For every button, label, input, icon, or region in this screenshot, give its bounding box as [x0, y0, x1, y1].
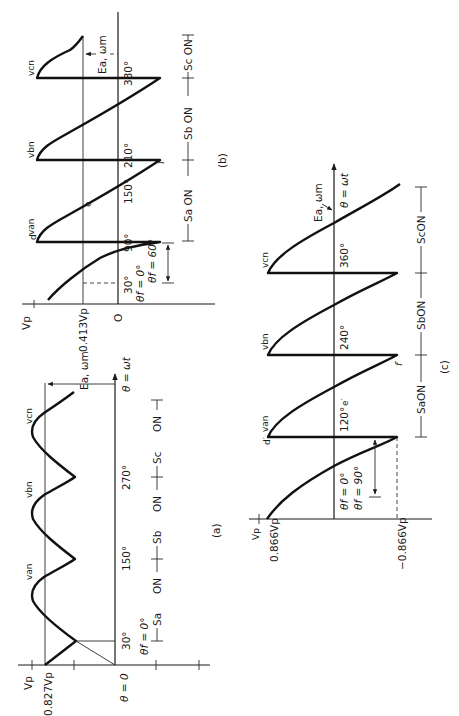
panel-a-sa-label: Sa — [151, 613, 163, 626]
panel-b-sa-label: Sa ON — [182, 189, 194, 222]
panel-c-axis-label: θ = ωt — [338, 172, 350, 208]
panel-a-fire-label: θf = 0° — [138, 617, 150, 655]
panel-a-diagonal — [76, 641, 115, 665]
panel-b-tick-30: 30° — [122, 275, 134, 294]
panel-a-waveform — [32, 392, 76, 665]
panel-a-sb-label: Sb — [151, 530, 163, 544]
panel-c-point-f: f′ — [394, 361, 404, 366]
panel-a-vbn-label: vbn — [24, 481, 34, 498]
panel-a-vp-label: Vp — [22, 676, 34, 690]
panel-a-tick-30: 30° — [120, 631, 132, 650]
panel-a-sc-on-label: ON — [151, 416, 163, 432]
panel-b-level-label: 0.413Vp — [77, 308, 89, 352]
panel-a-tick-150: 150° — [120, 546, 132, 571]
panel-b-tick-330: 330° — [122, 61, 134, 86]
panel-b-sb-label: Sb ON — [182, 107, 194, 140]
panel-b-emf-label: Ea, ωm — [96, 35, 108, 74]
panel-c-tick-240: 240° — [338, 325, 350, 350]
panel-b-fire-label: θf = 60° — [146, 239, 158, 283]
panel-c-pos-label: 0.866Vp — [268, 518, 280, 562]
panel-a-tick-270: 270° — [120, 465, 132, 490]
panel-c-switch-intervals: SaON SbON ScON — [414, 187, 428, 437]
panel-a-vcn-label: vcn — [24, 408, 34, 424]
panel-a-axis-label: θ = ωt — [120, 356, 132, 392]
waveform-figure: Vp 0.413Vp O 30° θf = 0° θf = 60° 90° 15… — [0, 0, 459, 716]
panel-c-caption: (c) — [438, 360, 450, 374]
panel-a-sa-on-label: ON — [151, 578, 163, 594]
panel-a-van-label: van — [24, 563, 34, 580]
panel-c-vp-label: Vp — [251, 528, 261, 540]
panel-a-caption: (a) — [210, 523, 222, 538]
panel-c-vcn-label: vcn — [260, 252, 270, 268]
panel-b-van-label: van — [26, 218, 36, 235]
panel-b-switch-intervals: Sa ON Sb ON Sc ON — [182, 35, 196, 241]
panel-c-neg-label: −0.866Vp — [396, 517, 408, 570]
panel-a: Vp 0.827Vp θ = 0 30° 150° 270° θf = 0° v… — [18, 351, 222, 716]
panel-c-tick-360: 360° — [338, 243, 350, 268]
panel-b-vcn-label: vcn — [26, 60, 36, 76]
panel-c-sc-label: ScON — [415, 215, 427, 244]
panel-c-sa-label: SaON — [415, 385, 427, 414]
panel-c-van-label: van — [260, 415, 270, 432]
panel-b-fire0-label: θf = 0° — [134, 264, 146, 302]
panel-b-tick-90: 90° — [122, 233, 134, 252]
panel-b-point-e: e — [83, 201, 93, 207]
panel-a-sc-label: Sc — [151, 451, 163, 464]
panel-b-vbn-label: vbn — [26, 141, 36, 158]
panel-b-waveform — [37, 36, 160, 300]
panel-a-origin-label: θ = 0 — [118, 673, 130, 702]
panel-c-point-e: e′ — [340, 398, 350, 406]
panel-a-sb-on-label: ON — [151, 496, 163, 512]
panel-b-zero-label: O — [112, 314, 124, 322]
panel-c-tick-120: 120° — [338, 407, 350, 432]
panel-b-tick-150: 150° — [122, 179, 134, 204]
panel-b-caption: (b) — [216, 153, 228, 168]
panel-b-tick-210: 210° — [122, 143, 134, 168]
panel-b-vp-label: Vp — [20, 316, 32, 330]
panel-a-level-label: 0.827Vp — [42, 672, 54, 716]
panel-c: Vp 0.866Vp −0.866Vp θf = 0° θf = 90° 120… — [249, 164, 450, 570]
panel-c-vbn-label: vbn — [260, 333, 270, 350]
panel-c-emf-label: Ea, ωm — [312, 183, 324, 222]
panel-b-sc-label: Sc ON — [182, 39, 194, 71]
panel-b: Vp 0.413Vp O 30° θf = 0° θf = 60° 90° 15… — [20, 12, 228, 352]
panel-c-point-d: d′ — [262, 437, 272, 445]
panel-c-fire-label: θf = 90° — [352, 466, 364, 510]
panel-c-fire0-label: θf = 0° — [338, 472, 350, 510]
panel-a-switch-intervals: Sa ON Sb ON Sc ON — [150, 400, 164, 641]
panel-c-sb-label: SbON — [415, 301, 427, 330]
